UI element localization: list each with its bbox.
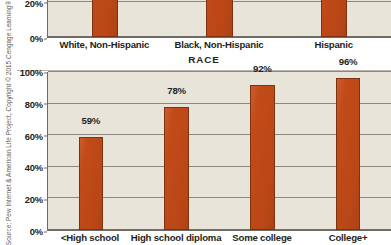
- bar-value-label: 59%: [82, 115, 101, 126]
- y-axis-tick-label: 20%: [25, 194, 43, 205]
- education-y-axis: 0%20%40%60%80%100%: [17, 72, 47, 231]
- y-axis-tick-label: 100%: [20, 67, 43, 78]
- chart-education: 0%20%40%60%80%100% 59%78%92%96% <High sc…: [17, 72, 391, 245]
- y-axis-tick-label: 0%: [30, 33, 43, 44]
- bar-value-label: 96%: [339, 56, 358, 67]
- x-axis-tick-label: <High school: [61, 232, 119, 243]
- x-axis-tick-label: Some college: [232, 232, 291, 243]
- education-plot-area: 59%78%92%96%: [47, 72, 391, 231]
- race-x-axis: White, Non-HispanicBlack, Non-HispanicHi…: [47, 38, 391, 52]
- x-axis-tick-label: High school diploma: [131, 232, 222, 243]
- race-y-axis: 0%20%: [17, 0, 47, 38]
- chart-race: 0%20% White, Non-HispanicBlack, Non-Hisp…: [17, 0, 391, 52]
- x-axis-tick-label: Hispanic: [314, 39, 352, 50]
- y-axis-tick-label: 0%: [30, 226, 43, 237]
- y-axis-tick-label: 20%: [25, 0, 43, 8]
- source-citation-text: Source: Pew Internet & American Life Pro…: [5, 0, 12, 244]
- race-plot-area: [47, 0, 391, 38]
- bar: [336, 78, 361, 230]
- source-citation: Source: Pew Internet & American Life Pro…: [0, 0, 16, 245]
- y-axis-tick-label: 40%: [25, 162, 43, 173]
- bar: [206, 0, 232, 37]
- race-axis-title: RACE: [17, 54, 391, 65]
- y-axis-tick-label: 80%: [25, 98, 43, 109]
- x-axis-tick-label: Black, Non-Hispanic: [175, 39, 264, 50]
- gridline: [48, 71, 391, 72]
- bar-value-label: 78%: [167, 85, 186, 96]
- education-x-axis: <High schoolHigh school diplomaSome coll…: [47, 231, 391, 245]
- bar: [92, 0, 118, 37]
- y-axis-tick-label: 60%: [25, 130, 43, 141]
- bar: [321, 0, 347, 37]
- bar-value-label: 92%: [253, 63, 272, 74]
- figure-page: { "source_note": "Source: Pew Internet &…: [0, 0, 391, 245]
- bar: [164, 107, 189, 230]
- x-axis-tick-label: College+: [329, 232, 368, 243]
- x-axis-tick-label: White, Non-Hispanic: [60, 39, 149, 50]
- bar: [250, 85, 275, 230]
- bar: [79, 137, 104, 230]
